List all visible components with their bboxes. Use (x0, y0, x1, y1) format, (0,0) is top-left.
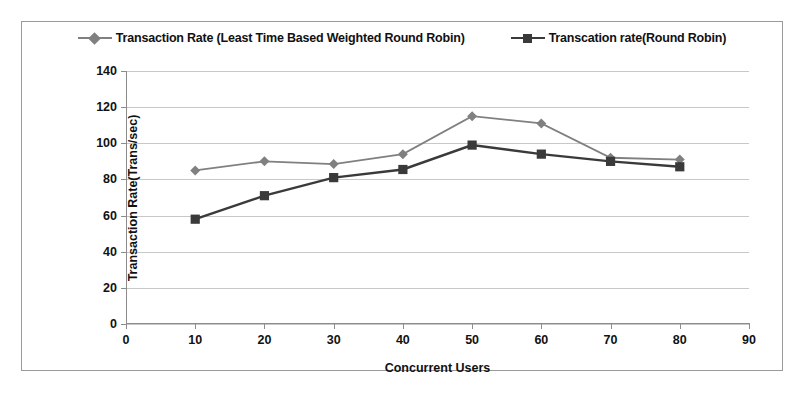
x-tick-label: 10 (188, 333, 202, 347)
data-point-marker[interactable] (537, 150, 546, 159)
data-point-marker[interactable] (329, 159, 339, 169)
y-tick-label: 140 (96, 64, 117, 78)
data-point-marker[interactable] (398, 165, 407, 174)
y-tick-label: 100 (96, 136, 117, 150)
x-tick-label: 40 (396, 333, 410, 347)
x-tick-label: 80 (673, 333, 687, 347)
data-point-marker[interactable] (190, 165, 200, 175)
x-tick-label: 90 (742, 333, 756, 347)
x-tick-label: 20 (257, 333, 271, 347)
data-point-marker[interactable] (260, 191, 269, 200)
x-tick-label: 70 (604, 333, 618, 347)
data-point-marker[interactable] (191, 215, 200, 224)
data-point-marker[interactable] (398, 149, 408, 159)
legend-label-series-2: Transcation rate(Round Robin) (549, 31, 727, 45)
data-point-marker[interactable] (606, 157, 615, 166)
x-tick-label: 0 (123, 333, 130, 347)
x-axis-title: Concurrent Users (385, 361, 491, 375)
chart-legend: Transaction Rate (Least Time Based Weigh… (22, 31, 782, 45)
data-point-marker[interactable] (259, 156, 269, 166)
square-marker-icon (523, 34, 532, 43)
legend-marker-square-icon (511, 32, 545, 44)
legend-item-least-time-weighted-round-robin[interactable]: Transaction Rate (Least Time Based Weigh… (78, 31, 465, 45)
chart-figure: Transaction Rate (Least Time Based Weigh… (21, 21, 783, 371)
y-tick-label: 40 (103, 245, 117, 259)
y-tick-label: 120 (96, 100, 117, 114)
x-tick-label: 60 (534, 333, 548, 347)
x-tick (749, 323, 750, 329)
legend-label-series-1: Transaction Rate (Least Time Based Weigh… (116, 31, 465, 45)
data-point-marker[interactable] (536, 118, 546, 128)
data-point-marker[interactable] (467, 111, 477, 121)
diamond-marker-icon (88, 32, 101, 45)
x-tick-label: 50 (465, 333, 479, 347)
data-point-marker[interactable] (329, 173, 338, 182)
plot-area: 020406080100120140 0102030405060708090 T… (126, 71, 749, 324)
series-layer (126, 71, 749, 324)
y-tick-label: 0 (110, 317, 117, 331)
legend-marker-diamond-icon (78, 32, 112, 44)
y-tick-label: 60 (103, 209, 117, 223)
y-tick-label: 20 (103, 281, 117, 295)
y-axis-title: Transaction Rate(Trans/sec) (126, 114, 140, 281)
x-tick-label: 30 (327, 333, 341, 347)
data-point-marker[interactable] (468, 140, 477, 149)
gridline (126, 324, 749, 325)
legend-item-round-robin[interactable]: Transcation rate(Round Robin) (511, 31, 727, 45)
data-point-marker[interactable] (675, 162, 684, 171)
y-tick-label: 80 (103, 172, 117, 186)
